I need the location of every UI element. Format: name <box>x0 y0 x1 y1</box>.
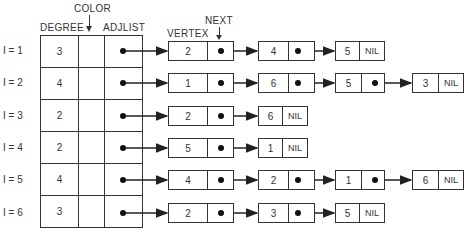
next-field <box>208 42 233 60</box>
nil-field: NIL <box>439 74 463 92</box>
vertex-field: 2 <box>169 107 208 125</box>
list-node: 3 <box>258 203 315 223</box>
vertex-field: 6 <box>413 171 439 189</box>
list-node: 1 <box>168 73 234 93</box>
vertex-field: 1 <box>259 139 283 157</box>
pointer-dot-icon <box>295 177 301 183</box>
list-node: 6 NIL <box>412 170 464 190</box>
vertex-field: 2 <box>259 171 289 189</box>
vertex-field: 1 <box>169 74 208 92</box>
pointer-dot-icon <box>372 80 378 86</box>
pointer-dot-icon <box>218 145 224 151</box>
vertex-field: 5 <box>336 42 360 60</box>
nil-field: NIL <box>283 139 307 157</box>
pointer-dot-icon <box>295 210 301 216</box>
pointer-dot-icon <box>295 48 301 54</box>
pointer-dot-icon <box>218 177 224 183</box>
next-field <box>208 74 233 92</box>
list-node: 6 NIL <box>258 106 308 126</box>
pointer-dot-icon <box>218 48 224 54</box>
vertex-field: 5 <box>336 74 362 92</box>
list-node: 2 <box>168 203 234 223</box>
next-field <box>289 204 314 222</box>
nil-field: NIL <box>360 42 384 60</box>
list-node: 2 <box>168 106 234 126</box>
vertex-field: 1 <box>336 171 362 189</box>
next-field <box>208 107 233 125</box>
vertex-field: 6 <box>259 107 283 125</box>
next-field <box>362 171 384 189</box>
list-node: 5 NIL <box>335 203 385 223</box>
list-node: 5 NIL <box>335 41 385 61</box>
next-field <box>289 42 314 60</box>
list-node: 5 <box>168 138 234 158</box>
next-field <box>208 204 233 222</box>
vertex-field: 4 <box>259 42 289 60</box>
list-node: 5 <box>335 73 385 93</box>
vertex-field: 6 <box>259 74 289 92</box>
next-field <box>289 74 314 92</box>
next-field <box>362 74 384 92</box>
next-field <box>208 171 233 189</box>
pointer-arrows <box>0 0 473 237</box>
pointer-dot-icon <box>218 80 224 86</box>
list-node: 6 <box>258 73 315 93</box>
list-node: 3 NIL <box>412 73 464 93</box>
list-node: 2 <box>168 41 234 61</box>
nil-field: NIL <box>439 171 463 189</box>
vertex-field: 2 <box>169 42 208 60</box>
vertex-field: 3 <box>413 74 439 92</box>
vertex-field: 3 <box>259 204 289 222</box>
list-node: 2 <box>258 170 315 190</box>
nil-field: NIL <box>283 107 307 125</box>
list-node: 1 <box>335 170 385 190</box>
nil-field: NIL <box>360 204 384 222</box>
next-field <box>289 171 314 189</box>
pointer-dot-icon <box>218 210 224 216</box>
pointer-dot-icon <box>372 177 378 183</box>
vertex-field: 4 <box>169 171 208 189</box>
list-node: 1 NIL <box>258 138 308 158</box>
pointer-dot-icon <box>218 113 224 119</box>
pointer-dot-icon <box>295 80 301 86</box>
list-node: 4 <box>168 170 234 190</box>
vertex-field: 2 <box>169 204 208 222</box>
vertex-field: 5 <box>169 139 208 157</box>
vertex-field: 5 <box>336 204 360 222</box>
list-node: 4 <box>258 41 315 61</box>
next-field <box>208 139 233 157</box>
